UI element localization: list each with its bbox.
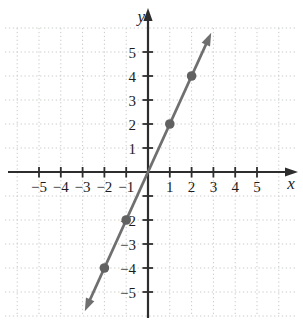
x-tick-label: 1	[166, 179, 174, 195]
x-tick-label: 4	[231, 179, 239, 195]
y-tick-label: −3	[120, 237, 136, 253]
data-point	[121, 215, 131, 225]
data-point	[165, 119, 175, 129]
x-tick-label: −3	[75, 179, 91, 195]
y-tick-label: 1	[129, 141, 137, 157]
x-tick-label: −4	[53, 179, 69, 195]
graph-figure: −5−4−3−2−11234512345−2−3−4−5xy	[0, 0, 303, 324]
x-tick-label: −5	[31, 179, 47, 195]
x-tick-label: −1	[118, 179, 134, 195]
line-arrow-icon	[85, 297, 95, 311]
data-point	[187, 71, 197, 81]
x-tick-label: 3	[210, 179, 218, 195]
y-tick-label: 2	[129, 117, 137, 133]
line-arrow-icon	[202, 33, 212, 47]
y-tick-label: 3	[129, 93, 137, 109]
x-tick-label: 5	[253, 179, 261, 195]
x-tick-label: −2	[96, 179, 112, 195]
y-tick-label: −4	[120, 261, 136, 277]
y-tick-label: 5	[129, 45, 137, 61]
data-point	[100, 263, 110, 273]
y-axis-name-label: y	[135, 7, 145, 26]
x-axis-name-label: x	[286, 174, 295, 193]
coordinate-plane-graph: −5−4−3−2−11234512345−2−3−4−5xy	[0, 0, 303, 324]
y-tick-label: 4	[129, 69, 137, 85]
x-tick-label: 2	[188, 179, 196, 195]
y-tick-label: −5	[120, 285, 136, 301]
